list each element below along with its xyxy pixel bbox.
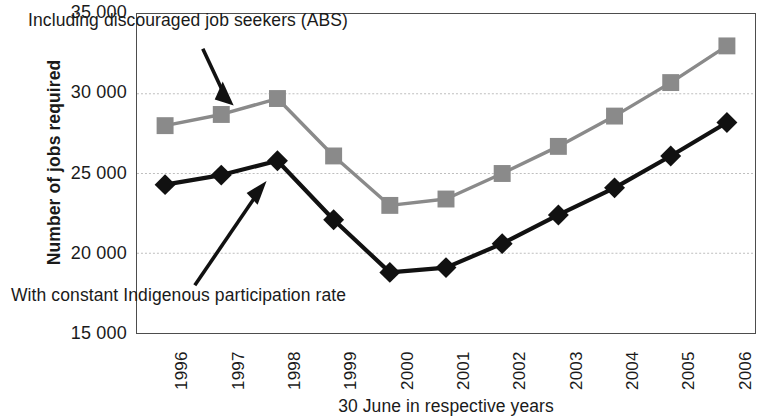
annotation-arrow-bottom bbox=[195, 189, 261, 285]
data-point-marker bbox=[718, 37, 735, 54]
annotation-label-top: Including discouraged job seekers (ABS) bbox=[28, 10, 348, 31]
annotation-label-bottom: With constant Indigenous participation r… bbox=[11, 285, 346, 306]
annotation-arrow-bottom-head bbox=[247, 181, 267, 205]
series-including-discouraged-job-seekers bbox=[157, 37, 736, 213]
y-axis-tick-label: 15 000 bbox=[9, 323, 127, 344]
data-point-marker bbox=[660, 146, 681, 167]
x-axis-tick-labels: 1996199719981999200020012002200320042005… bbox=[136, 336, 756, 396]
annotation-arrow-top-head bbox=[215, 82, 234, 106]
data-point-marker bbox=[550, 138, 567, 155]
x-axis-tick-label: 2003 bbox=[567, 351, 587, 390]
y-axis-tick-label: 30 000 bbox=[9, 82, 127, 103]
x-axis-tick-label: 2006 bbox=[736, 351, 756, 390]
data-point-marker bbox=[548, 205, 569, 226]
x-axis-tick-label: 1996 bbox=[172, 351, 192, 390]
x-axis-tick-label: 2001 bbox=[454, 351, 474, 390]
x-axis-tick-label: 2002 bbox=[510, 351, 530, 390]
x-axis-tick-label: 1997 bbox=[229, 351, 249, 390]
x-axis-tick-label: 1999 bbox=[341, 351, 361, 390]
data-point-marker bbox=[381, 197, 398, 214]
data-point-marker bbox=[716, 112, 737, 133]
x-axis-tick-label: 2005 bbox=[679, 351, 699, 390]
data-point-marker bbox=[438, 191, 455, 208]
x-axis-title: 30 June in respective years bbox=[136, 396, 756, 417]
x-axis-tick-label: 2000 bbox=[398, 351, 418, 390]
data-point-marker bbox=[269, 90, 286, 107]
data-point-marker bbox=[213, 106, 230, 123]
data-point-marker bbox=[494, 165, 511, 182]
data-point-marker bbox=[492, 233, 513, 254]
data-point-marker bbox=[157, 117, 174, 134]
data-point-marker bbox=[211, 165, 232, 186]
data-point-marker bbox=[606, 108, 623, 125]
x-axis-tick-label: 2004 bbox=[623, 351, 643, 390]
chart-container: Number of jobs required 35 00030 00025 0… bbox=[0, 0, 770, 419]
y-axis-tick-label: 20 000 bbox=[9, 243, 127, 264]
data-point-marker bbox=[604, 177, 625, 198]
data-point-marker bbox=[662, 74, 679, 91]
data-point-marker bbox=[436, 257, 457, 278]
data-point-marker bbox=[155, 174, 176, 195]
y-axis-tick-label: 25 000 bbox=[9, 163, 127, 184]
x-axis-tick-label: 1998 bbox=[285, 351, 305, 390]
series-line bbox=[165, 46, 727, 206]
y-axis-tick-labels: 35 00030 00025 00020 00015 000 bbox=[0, 0, 127, 419]
data-point-marker bbox=[325, 148, 342, 165]
